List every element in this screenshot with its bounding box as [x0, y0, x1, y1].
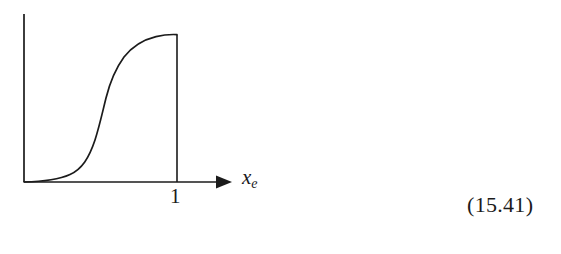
x-axis-arrow-icon [216, 176, 232, 189]
sigmoid-curve [24, 35, 177, 182]
figure-page: 1 xe (15.41) [0, 0, 561, 254]
equation-number: (15.41) [467, 194, 533, 216]
x-axis-label: xe [242, 167, 258, 191]
x-axis-label-base: x [242, 165, 251, 189]
x-axis-label-subscript: e [251, 176, 257, 191]
tick-label-one: 1 [170, 186, 181, 207]
